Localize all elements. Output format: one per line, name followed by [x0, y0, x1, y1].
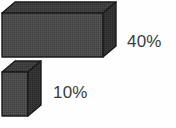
bar-chart-graphic — [0, 0, 176, 128]
bar-10-percent-front-face — [2, 72, 28, 116]
bar-40-percent-top-face — [2, 2, 116, 13]
bar-40-percent — [2, 2, 116, 57]
data-label-10-percent: 10% — [53, 84, 88, 101]
bar-10-percent — [2, 61, 41, 116]
bar-40-percent-front-face — [2, 13, 103, 57]
bar-chart-figure: 40% 10% — [0, 0, 176, 128]
data-label-40-percent: 40% — [127, 33, 162, 50]
